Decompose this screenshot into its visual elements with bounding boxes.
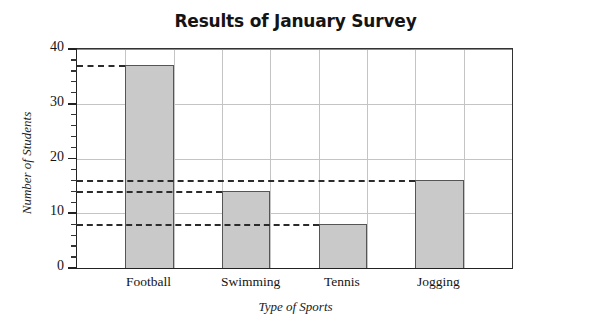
y-tick-major (68, 212, 77, 214)
bar-tennis (319, 224, 367, 268)
reference-line-tennis (77, 224, 319, 226)
plot-inner (77, 49, 512, 268)
plot-area (76, 48, 513, 269)
x-tick-label-swimming: Swimming (221, 274, 269, 290)
y-tick-minor (71, 81, 77, 82)
chart-title: Results of January Survey (0, 11, 591, 31)
y-tick-label: 20 (24, 149, 64, 165)
bar-jogging (415, 180, 463, 268)
x-axis-label: Type of Sports (0, 299, 591, 315)
x-tick-label-jogging: Jogging (414, 274, 462, 290)
y-tick-minor (71, 180, 77, 181)
x-tick-label-tennis: Tennis (318, 274, 366, 290)
reference-line-swimming (77, 191, 222, 193)
y-tick-minor (71, 256, 77, 257)
y-tick-minor (71, 136, 77, 137)
y-tick-minor (71, 125, 77, 126)
y-tick-label: 30 (24, 94, 64, 110)
reference-line-jogging (77, 180, 415, 182)
y-tick-major (68, 48, 77, 50)
y-tick-label: 40 (24, 39, 64, 55)
y-tick-minor (71, 245, 77, 246)
bar-chart-figure: Results of January Survey Number of Stud… (0, 0, 591, 324)
bar-football (125, 65, 173, 268)
y-tick-label: 10 (24, 203, 64, 219)
reference-line-football (77, 65, 125, 67)
y-tick-major (68, 158, 77, 160)
y-tick-minor (71, 235, 77, 236)
y-tick-minor (71, 70, 77, 71)
x-tick-label-football: Football (124, 274, 172, 290)
y-tick-major (68, 103, 77, 105)
y-tick-minor (71, 202, 77, 203)
y-tick-major (68, 267, 77, 269)
y-tick-minor (71, 92, 77, 93)
y-tick-minor (71, 169, 77, 170)
y-tick-minor (71, 147, 77, 148)
y-tick-minor (71, 224, 77, 225)
y-tick-minor (71, 59, 77, 60)
y-tick-minor (71, 114, 77, 115)
y-tick-label: 0 (24, 258, 64, 274)
y-tick-minor (71, 191, 77, 192)
bar-swimming (222, 191, 270, 268)
horizontal-gridline (77, 49, 512, 50)
